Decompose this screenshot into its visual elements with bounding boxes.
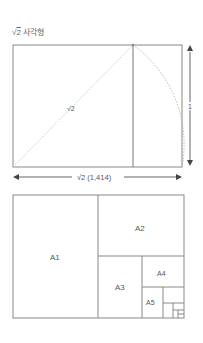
label-a4: A4: [157, 270, 166, 277]
pivot-point: [132, 44, 134, 46]
outer-rectangle: [13, 45, 182, 167]
diagram-canvas: √2 1 √2 (1,414) A1 A2 A3 A4 A5: [0, 0, 203, 343]
a-series-diagram: [13, 195, 184, 318]
label-a2: A2: [135, 224, 145, 233]
arrow-left-icon: [13, 174, 19, 180]
arrow-right-icon: [176, 174, 182, 180]
label-a3: A3: [115, 283, 125, 292]
width-label: √2 (1,414): [77, 173, 112, 182]
arrow-up-icon: [187, 45, 193, 51]
arc-dashed-line: [133, 45, 184, 167]
arrow-down-icon: [187, 160, 193, 166]
diagonal-label: √2: [67, 105, 75, 112]
height-label: 1: [188, 103, 192, 110]
label-a5: A5: [146, 299, 155, 306]
label-a1: A1: [50, 253, 60, 262]
root2-rectangle-diagram: √2 1 √2 (1,414): [13, 44, 193, 182]
